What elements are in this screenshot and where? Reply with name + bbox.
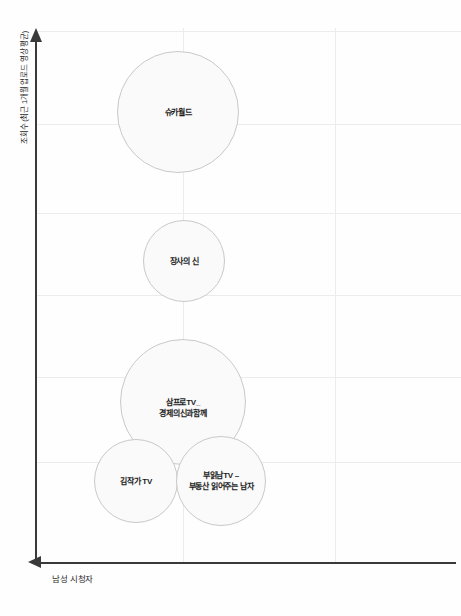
y-axis-label: 조회수 (최근 1개월 업로드 영상 평균) <box>18 23 29 153</box>
gridline-horizontal <box>36 295 461 296</box>
y-axis-arrow-icon <box>30 28 42 42</box>
bubble-label: 슈카월드 <box>161 107 196 118</box>
bubble-syuka-world[interactable]: 슈카월드 <box>117 51 239 173</box>
gridline-horizontal <box>36 124 461 125</box>
bubble-jangsaui-shin[interactable]: 장사의 신 <box>143 220 225 302</box>
bubble-label: 삼프로TV_ 경제의신과함께 <box>155 397 210 419</box>
bubble-kimjakga-tv[interactable]: 김작가 TV <box>94 439 178 523</box>
bubble-chart: 조회수 (최근 1개월 업로드 영상 평균) 남성 시청자 슈카월드 장사의 신… <box>0 0 461 616</box>
x-axis-line <box>36 562 456 564</box>
gridline-vertical <box>335 28 336 563</box>
bubble-label: 부읽남TV – 부동산 읽어주는 남자 <box>185 470 258 492</box>
bubble-buiknam-tv[interactable]: 부읽남TV – 부동산 읽어주는 남자 <box>176 436 266 526</box>
y-axis-line <box>35 40 37 564</box>
gridline-horizontal <box>36 213 461 214</box>
x-axis-label: 남성 시청자 <box>52 572 93 584</box>
gridline-horizontal <box>36 377 461 378</box>
gridline-horizontal <box>36 31 461 32</box>
bubble-label: 김작가 TV <box>116 476 156 487</box>
x-axis-arrow-icon <box>28 556 41 568</box>
bubble-label: 장사의 신 <box>166 256 203 267</box>
